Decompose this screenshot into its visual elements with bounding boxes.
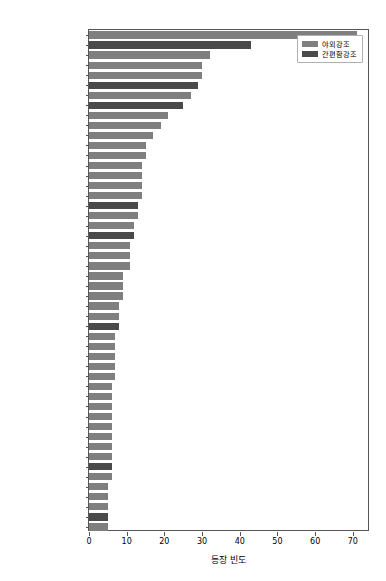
x-axis-tick-label: 60 bbox=[310, 537, 320, 546]
bar bbox=[89, 333, 115, 340]
y-axis-tick bbox=[86, 75, 89, 76]
bar bbox=[89, 51, 210, 58]
legend-label-convenience: 간편함강조 bbox=[322, 49, 357, 59]
y-axis-tick bbox=[86, 457, 89, 458]
y-axis-tick bbox=[86, 166, 89, 167]
y-axis-tick bbox=[86, 406, 89, 407]
x-axis-tick bbox=[202, 532, 203, 536]
x-axis-tick bbox=[127, 532, 128, 536]
y-axis-tick bbox=[86, 517, 89, 518]
y-axis-tick bbox=[86, 186, 89, 187]
y-axis-tick bbox=[86, 306, 89, 307]
x-axis-tick-label: 50 bbox=[272, 537, 282, 546]
bar bbox=[89, 162, 142, 169]
x-axis-tick bbox=[240, 532, 241, 536]
y-axis-tick bbox=[86, 437, 89, 438]
bar bbox=[89, 232, 134, 239]
y-axis-tick bbox=[86, 527, 89, 528]
bar bbox=[89, 282, 123, 289]
y-axis-tick bbox=[86, 35, 89, 36]
x-axis-tick-label: 10 bbox=[122, 537, 132, 546]
x-axis-tick-label: 40 bbox=[235, 537, 245, 546]
y-axis-tick bbox=[86, 236, 89, 237]
legend-swatch-outdoor bbox=[302, 41, 318, 47]
y-axis-tick bbox=[86, 346, 89, 347]
y-axis-tick bbox=[86, 266, 89, 267]
y-axis-tick bbox=[86, 105, 89, 106]
x-axis-tick-label: 70 bbox=[348, 537, 358, 546]
bar bbox=[89, 112, 168, 119]
legend-item-0: 야외강조 bbox=[302, 39, 357, 49]
bar bbox=[89, 242, 130, 249]
y-axis-tick bbox=[86, 286, 89, 287]
bar bbox=[89, 152, 146, 159]
legend-swatch-convenience bbox=[302, 51, 318, 57]
y-axis-tick bbox=[86, 115, 89, 116]
bar bbox=[89, 483, 108, 490]
bar bbox=[89, 132, 153, 139]
y-axis-tick bbox=[86, 135, 89, 136]
y-axis-tick bbox=[86, 216, 89, 217]
y-axis-tick bbox=[86, 276, 89, 277]
bar bbox=[89, 272, 123, 279]
x-axis-tick bbox=[277, 532, 278, 536]
y-axis-tick bbox=[86, 366, 89, 367]
y-axis-tick bbox=[86, 427, 89, 428]
bar bbox=[89, 413, 112, 420]
y-axis-tick bbox=[86, 65, 89, 66]
y-axis-tick bbox=[86, 206, 89, 207]
bar bbox=[89, 62, 202, 69]
bar bbox=[89, 302, 119, 309]
x-axis-tick-label: 30 bbox=[197, 537, 207, 546]
plot-area: 010203040506070 야외강조 간편함강조 bbox=[88, 29, 369, 531]
bar bbox=[89, 513, 108, 520]
bar bbox=[89, 192, 142, 199]
bar bbox=[89, 212, 138, 219]
bar bbox=[89, 182, 142, 189]
y-axis-tick bbox=[86, 246, 89, 247]
x-axis-tick bbox=[315, 532, 316, 536]
x-axis-tick-label: 20 bbox=[159, 537, 169, 546]
bar bbox=[89, 202, 138, 209]
bar bbox=[89, 523, 108, 530]
y-axis-tick bbox=[86, 376, 89, 377]
y-axis-tick bbox=[86, 477, 89, 478]
bar bbox=[89, 493, 108, 500]
x-axis-tick-label: 0 bbox=[86, 537, 91, 546]
y-axis-tick bbox=[86, 45, 89, 46]
bar bbox=[89, 343, 115, 350]
y-axis-tick bbox=[86, 507, 89, 508]
bar bbox=[89, 453, 112, 460]
chart-legend: 야외강조 간편함강조 bbox=[297, 35, 363, 63]
bar bbox=[89, 463, 112, 470]
bar bbox=[89, 262, 130, 269]
x-axis-title: 등장 빈도 bbox=[88, 553, 369, 566]
bar bbox=[89, 82, 198, 89]
x-axis-tick bbox=[353, 532, 354, 536]
y-axis-tick bbox=[86, 155, 89, 156]
bar bbox=[89, 503, 108, 510]
bar bbox=[89, 122, 161, 129]
bar bbox=[89, 92, 191, 99]
bar-chart-figure: 010203040506070 야외강조 간편함강조 #떡볶이#밀키트#국물떡볶… bbox=[0, 0, 386, 581]
y-axis-tick bbox=[86, 145, 89, 146]
bar bbox=[89, 313, 119, 320]
bar bbox=[89, 323, 119, 330]
bar bbox=[89, 41, 251, 48]
bar bbox=[89, 443, 112, 450]
y-axis-tick bbox=[86, 487, 89, 488]
bar bbox=[89, 72, 202, 79]
bar bbox=[89, 363, 115, 370]
y-axis-tick bbox=[86, 256, 89, 257]
y-axis-tick bbox=[86, 95, 89, 96]
bar bbox=[89, 252, 130, 259]
y-axis-tick bbox=[86, 85, 89, 86]
bar bbox=[89, 433, 112, 440]
bar bbox=[89, 142, 146, 149]
y-axis-tick bbox=[86, 497, 89, 498]
bar bbox=[89, 473, 112, 480]
bar bbox=[89, 172, 142, 179]
y-axis-tick bbox=[86, 467, 89, 468]
bar bbox=[89, 403, 112, 410]
y-axis-tick bbox=[86, 386, 89, 387]
